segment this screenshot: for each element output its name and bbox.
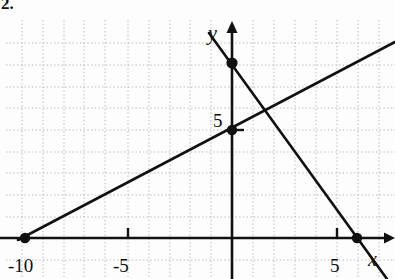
y-axis-label: y <box>206 22 217 45</box>
point-y-intercept-five <box>227 125 237 135</box>
point-x-intercept-left <box>20 233 30 243</box>
x-axis-label: x <box>367 248 377 270</box>
x-tick-label-neg-five: -5 <box>113 255 129 276</box>
x-axis <box>0 233 395 244</box>
point-y-intercept-upper <box>226 57 237 68</box>
grid-vertical-lines <box>22 20 379 279</box>
point-x-intercept-right <box>352 233 362 243</box>
decreasing-line-series <box>209 33 387 279</box>
x-tick-label-five: 5 <box>330 255 340 276</box>
x-tick-label-neg-ten: -10 <box>8 255 33 276</box>
graph-figure: 2. <box>0 0 395 279</box>
coordinate-plane-graph: x y -10 -5 5 5 <box>0 0 395 279</box>
y-tick-label-five: 5 <box>213 110 223 131</box>
